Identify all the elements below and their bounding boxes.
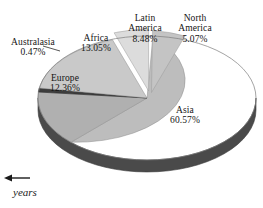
slice-label-asia: Asia 60.57% (158, 94, 212, 136)
slice-label-north-america-pct: 5.07% (170, 34, 220, 45)
slice-label-africa: Africa 13.05% (68, 22, 124, 64)
slice-label-north-america-name: North America (178, 13, 211, 34)
slice-label-australasia-pct: 0.47% (2, 47, 64, 58)
slice-label-africa-pct: 13.05% (68, 43, 124, 54)
slice-label-latin-america: Latin America 8.48% (122, 2, 168, 55)
slice-label-europe: Europe 12.36% (38, 62, 92, 104)
slice-label-australasia-name: Australasia (11, 37, 55, 47)
slice-label-asia-pct: 60.57% (158, 115, 212, 126)
slice-label-latin-america-pct: 8.48% (122, 34, 168, 45)
slice-label-europe-name: Europe (51, 73, 79, 83)
slice-label-europe-pct: 12.36% (38, 83, 92, 94)
pie-chart-figure: Australasia 0.47% Africa 13.05% Latin Am… (0, 0, 263, 208)
slice-label-north-america: North America 5.07% (170, 2, 220, 55)
slice-label-asia-name: Asia (176, 105, 194, 115)
slice-label-latin-america-name: Latin America (128, 13, 161, 34)
axis-label-years: years (13, 186, 37, 198)
axis-arrow-icon (4, 175, 30, 182)
slice-label-africa-name: Africa (84, 33, 109, 43)
